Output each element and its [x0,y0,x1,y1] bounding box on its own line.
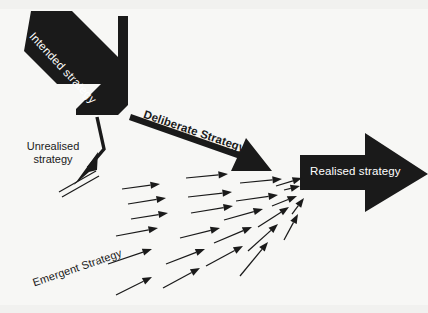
diagram-canvas: Intended strategy Deliberate Strategy Un… [0,0,428,313]
emergent-arrow-head [148,226,158,233]
emergent-arrow-shaft [131,215,159,219]
emergent-arrow-shaft [214,231,243,243]
emergent-arrow-shaft [122,185,151,189]
emergent-arrow-head [290,185,300,192]
emergent-arrow-shaft [206,251,235,266]
emergent-arrow-shaft [284,222,293,240]
emergent-arrow-shaft [224,212,254,220]
emergent-arrow-head [222,189,232,196]
emergent-arrow-head [142,277,152,284]
emergent-arrow-head [242,227,252,234]
emergent-arrow-shaft [163,273,192,288]
emergent-arrow-head [253,208,263,215]
emergent-arrow-shaft [188,193,223,197]
emergent-strategy-arrow-field [108,171,304,295]
emergent-arrow-head [272,176,282,183]
emergent-arrow-shaft [116,281,144,295]
emergent-arrow-head [210,227,220,234]
emergent-arrow-head [279,207,289,215]
emergent-arrow-head [223,204,233,211]
emergent-arrow-head [156,196,166,203]
emergent-arrow-head [287,196,297,203]
emergent-arrow-shaft [240,249,262,276]
unrealised-strategy-label: Unrealised strategy [17,140,89,166]
emergent-arrow-head [268,193,278,200]
emergent-arrow-shaft [116,230,149,236]
emergent-arrow-head [195,249,205,256]
emergent-arrow-shaft [180,230,211,238]
emergent-arrow-shaft [186,175,219,178]
emergent-arrow-shaft [166,252,196,264]
emergent-arrow-head [233,246,243,254]
emergent-arrow-shaft [191,208,224,213]
emergent-arrow-shaft [236,196,269,201]
emergent-arrow-head [150,182,160,189]
emergent-arrow-shaft [284,188,291,190]
emergent-arrow-head [190,268,200,276]
emergent-arrow-head [218,171,228,178]
emergent-arrow-shaft [240,180,273,183]
emergent-arrow-head [295,198,304,208]
emergent-arrow-head [290,214,298,224]
emergent-arrow-shaft [292,206,298,214]
emergent-arrow-head [142,249,152,256]
realised-strategy-label: Realised strategy [310,165,401,179]
emergent-arrow-shaft [272,200,288,206]
emergent-arrow-shaft [128,199,157,204]
intended-strategy-arrow-shape [24,11,128,115]
emergent-arrow-head [158,211,168,218]
emergent-arrow-shaft [248,230,271,251]
